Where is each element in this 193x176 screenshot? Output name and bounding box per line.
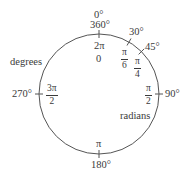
pi-over-6-numerator: π <box>121 48 128 60</box>
pi-over-2-denominator: 2 <box>146 96 151 107</box>
degree-label-45: 45° <box>145 42 160 53</box>
3pi-over-2-denominator: 2 <box>49 96 54 107</box>
tick-30 <box>127 39 131 46</box>
radian-label-2pi: 2π <box>94 41 105 52</box>
pi-over-2-numerator: π <box>145 84 152 96</box>
degree-label-360: 360° <box>90 20 110 31</box>
pi-over-6-denominator: 6 <box>122 60 127 71</box>
radian-label-pi-over-2: π 2 <box>145 84 152 106</box>
radian-label-3pi-over-2: 3π 2 <box>46 84 58 106</box>
radian-label-pi-over-4: π 4 <box>134 57 141 79</box>
radian-label-0: 0 <box>96 54 101 65</box>
3pi-over-2-numerator: 3π <box>46 84 58 96</box>
pi-over-4-denominator: 4 <box>135 69 140 80</box>
radian-label-pi: π <box>96 139 101 150</box>
degree-label-270: 270° <box>12 89 32 100</box>
degree-label-90: 90° <box>165 89 180 100</box>
degree-label-180: 180° <box>91 160 111 171</box>
pi-over-4-numerator: π <box>134 57 141 69</box>
degree-label-30: 30° <box>129 27 144 38</box>
radians-caption: radians <box>120 111 150 122</box>
degrees-caption: degrees <box>10 57 42 68</box>
radian-label-pi-over-6: π 6 <box>121 48 128 70</box>
